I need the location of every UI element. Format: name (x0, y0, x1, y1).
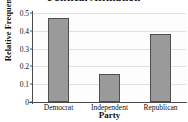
y-axis-tick-label: 0.4 (12, 26, 29, 35)
plot-area (33, 13, 186, 102)
gridline (33, 13, 186, 14)
y-axis-tick-label: 0.3 (12, 44, 29, 53)
y-axis-tick-label: 0.2 (12, 62, 29, 71)
y-axis-tick-label: 0 (12, 98, 29, 107)
chart-figure: Political Affiliation Relative Frequency… (0, 0, 188, 122)
y-axis-tick-label: 0.5 (12, 9, 29, 18)
y-axis-tick-mark (30, 48, 33, 49)
y-axis-tick-label: 0.1 (12, 80, 29, 89)
y-axis-line (32, 11, 33, 104)
bar (99, 74, 120, 102)
y-axis-tick-mark (30, 30, 33, 31)
y-axis-tick-labels: 00.10.20.30.40.5 (12, 9, 29, 106)
y-axis-tick-mark (30, 102, 33, 103)
bar (48, 18, 69, 102)
y-axis-tick-mark (30, 13, 33, 14)
bar (150, 34, 171, 102)
x-axis-title: Party (33, 110, 186, 120)
y-axis-tick-mark (30, 84, 33, 85)
y-axis-tick-mark (30, 66, 33, 67)
chart-title: Political Affiliation (0, 0, 188, 3)
